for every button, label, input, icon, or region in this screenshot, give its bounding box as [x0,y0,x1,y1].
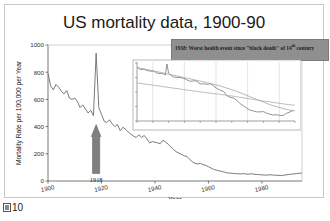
missing-glyph-icon [3,203,11,212]
arrow-up-icon [91,125,101,174]
inset-chart-svg [131,59,301,131]
y-tick-label: 400 [34,123,45,130]
peak-arrow-annotation [91,125,101,174]
x-tick-label: 1920 [93,183,108,193]
y-tick-label: 1000 [30,41,44,48]
figure-caption: 10 [3,202,23,213]
inset-panel [133,60,301,130]
x-tick-label: 1960 [200,183,215,193]
callout-line-2-post: century [295,45,314,51]
y-tick-label: 200 [34,150,45,157]
x-tick-label: 1940 [147,183,162,193]
callout-line-1: 1918: Worst health event since "black de… [175,45,285,51]
x-axis-label: Year [168,196,182,199]
figure-number: 10 [12,202,23,213]
x-tick-label: 1980 [254,183,269,193]
callout-annotation: 1918: Worst health event since "black de… [171,39,329,61]
y-axis-label: Mortality Rate per 100,000 per Year [15,60,23,165]
inset-chart [131,59,301,131]
y-tick-label: 0 [41,177,45,184]
peak-arrow-label: 1918 [90,176,103,183]
x-tick-label: 1900 [40,183,55,193]
y-tick-label: 600 [34,96,45,103]
y-tick-label: 800 [34,69,45,76]
slide-canvas: US mortality data, 1900-90 0200400600800… [4,4,324,198]
